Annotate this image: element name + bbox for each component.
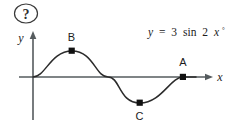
point-label-c: C xyxy=(136,110,144,122)
point-marker-b xyxy=(69,48,75,54)
question-mark-icon: ? xyxy=(23,7,30,22)
equation-coefficient: 2 xyxy=(202,26,208,38)
y-axis-label: y xyxy=(17,31,24,45)
figure-canvas: ? y x B C A xyxy=(0,0,232,127)
x-axis-arrowhead xyxy=(205,74,213,81)
sine-graph-figure: ? y x B C A xyxy=(0,0,232,127)
equation-amplitude: 3 xyxy=(171,26,177,38)
point-label-b: B xyxy=(68,31,75,43)
x-axis-label: x xyxy=(216,70,223,84)
point-marker-a xyxy=(180,74,186,80)
degree-symbol-icon: ° xyxy=(222,26,225,34)
equation-variable: x xyxy=(213,26,220,38)
point-label-a: A xyxy=(179,56,187,68)
equation-text: y = 3 sin 2 x ° xyxy=(147,26,225,39)
question-mark-badge: ? xyxy=(15,4,38,23)
point-marker-c xyxy=(137,100,143,106)
equation-function: sin xyxy=(183,26,197,38)
equation-lhs: y xyxy=(147,26,154,39)
equation-equals: = xyxy=(159,26,166,38)
y-axis: y xyxy=(17,31,36,120)
equation-annotation: y = 3 sin 2 x ° xyxy=(147,26,225,39)
y-axis-arrowhead xyxy=(30,31,37,39)
